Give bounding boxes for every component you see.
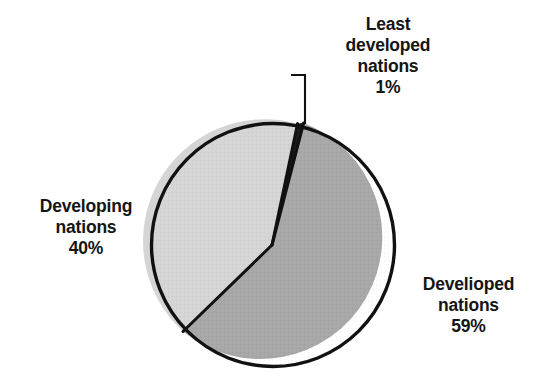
slice-label-least-developed-line3: nations (313, 56, 463, 77)
slice-label-developing: Developing nations 40% (8, 196, 164, 259)
slice-label-developed-line1: Develioped (396, 274, 541, 295)
pie-chart-figure: Least developed nations 1% Developing na… (0, 0, 545, 391)
slice-label-least-developed-line1: Least (313, 14, 463, 35)
slice-label-least-developed: Least developed nations 1% (313, 14, 463, 98)
slice-label-least-developed-line2: developed (313, 35, 463, 56)
slice-label-developed: Develioped nations 59% (396, 274, 541, 337)
slice-value-least-developed: 1% (313, 77, 463, 98)
slice-value-developed: 59% (396, 316, 541, 337)
slice-label-developing-line2: nations (8, 217, 164, 238)
leader-line-least-developed (291, 75, 305, 124)
slice-label-developed-line2: nations (396, 295, 541, 316)
slice-value-developing: 40% (8, 238, 164, 259)
slice-label-developing-line1: Developing (8, 196, 164, 217)
